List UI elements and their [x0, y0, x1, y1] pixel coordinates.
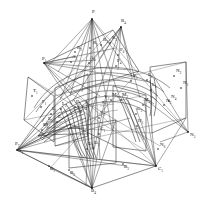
figure-canvas: PR4P1R2R1R3R5A2A3P6P4P5L6L5N2N1N4N3N5N6T… — [0, 0, 207, 208]
figure-background — [0, 0, 207, 208]
projective-geometry-diagram: PR4P1R2R1R3R5A2A3P6P4P5L6L5N2N1N4N3N5N6T… — [0, 0, 207, 208]
point-label-P: P — [92, 9, 95, 14]
